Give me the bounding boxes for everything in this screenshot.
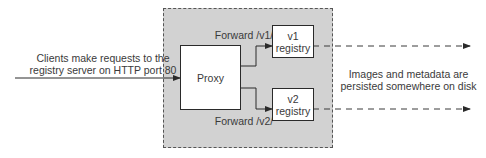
v2-registry-box: v2 registry bbox=[272, 88, 314, 121]
forward-v2-label: Forward /v2/ bbox=[214, 115, 274, 127]
proxy-box: Proxy bbox=[180, 45, 241, 110]
forward-v1-arrow bbox=[240, 46, 272, 66]
forward-v2-arrow bbox=[240, 88, 272, 109]
storage-label: Images and metadata are persisted somewh… bbox=[336, 68, 481, 92]
request-label: Clients make requests to the registry se… bbox=[28, 52, 178, 76]
forward-v1-label: Forward /v1/ bbox=[214, 29, 274, 41]
v1-registry-box: v1 registry bbox=[272, 25, 314, 58]
proxy-label: Proxy bbox=[197, 72, 224, 84]
